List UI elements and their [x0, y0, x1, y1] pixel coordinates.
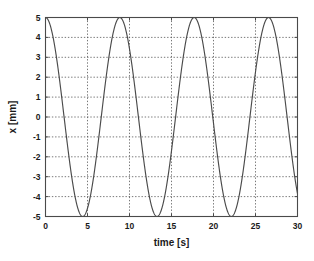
y-tick-label: 2 — [36, 72, 41, 82]
chart-figure: 543210-1-2-3-4-5 051015202530 time [s] x… — [0, 0, 314, 261]
x-tick-label: 5 — [85, 221, 90, 231]
y-tick-label: -1 — [33, 132, 41, 142]
y-axis-title: x [mm] — [7, 101, 18, 134]
y-tick-label: 4 — [36, 32, 41, 42]
x-axis-tick-labels: 051015202530 — [43, 221, 302, 231]
x-tick-label: 30 — [293, 221, 303, 231]
y-tick-label: 3 — [36, 52, 41, 62]
y-tick-label: -3 — [33, 172, 41, 182]
x-tick-label: 10 — [125, 221, 135, 231]
x-tick-label: 25 — [251, 221, 261, 231]
y-tick-label: 0 — [36, 112, 41, 122]
y-tick-label: -2 — [33, 152, 41, 162]
x-tick-label: 15 — [167, 221, 177, 231]
y-tick-label: 1 — [36, 92, 41, 102]
y-axis-tick-labels: 543210-1-2-3-4-5 — [33, 13, 41, 222]
y-tick-label: 5 — [36, 13, 41, 23]
x-tick-label: 0 — [43, 221, 48, 231]
x-tick-label: 20 — [209, 221, 219, 231]
sine-wave-plot: 543210-1-2-3-4-5 051015202530 time [s] x… — [0, 0, 314, 261]
y-tick-label: -5 — [33, 212, 41, 222]
y-tick-label: -4 — [33, 192, 41, 202]
x-axis-title: time [s] — [154, 237, 190, 248]
